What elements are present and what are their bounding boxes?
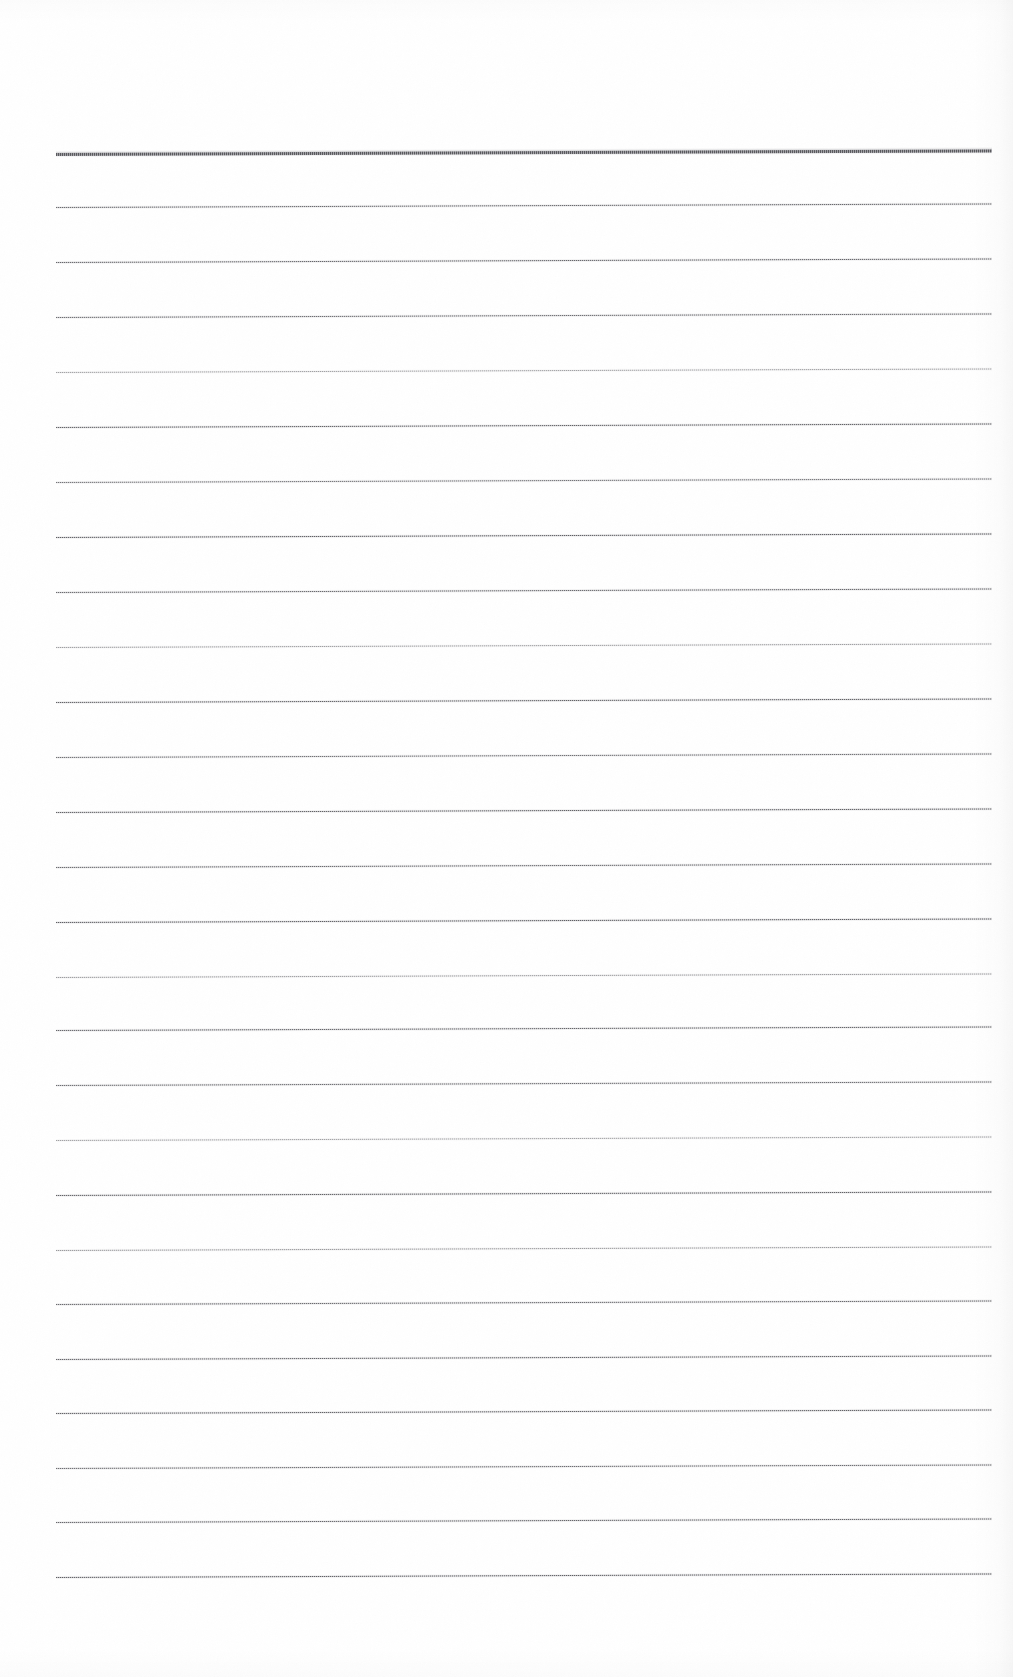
rule-line-halo <box>56 1572 992 1579</box>
rule-line <box>0 1025 1013 1035</box>
rule-line-halo <box>56 1354 992 1361</box>
rule-line-halo <box>56 587 992 594</box>
rule-line-stroke <box>56 478 992 483</box>
rule-line-halo <box>56 532 992 539</box>
rule-line-halo <box>56 202 992 209</box>
rule-line <box>0 312 1013 322</box>
rule-line-halo <box>56 1408 992 1415</box>
rule-line-stroke <box>56 1300 992 1305</box>
rule-line-stroke <box>56 588 992 593</box>
rule-line-halo <box>56 147 992 157</box>
rule-line-halo <box>56 1245 992 1252</box>
rule-line-halo <box>56 1190 992 1197</box>
rule-line <box>0 972 1013 982</box>
rule-line-stroke <box>56 423 992 428</box>
rule-line-stroke <box>56 533 992 538</box>
rule-line-halo <box>56 1299 992 1306</box>
rule-line-halo <box>56 1463 992 1470</box>
rule-line-halo <box>56 1135 992 1142</box>
rule-line-halo <box>56 807 992 814</box>
rule-line <box>0 1190 1013 1200</box>
rule-line-stroke <box>56 1246 992 1251</box>
rule-line-halo <box>56 1080 992 1087</box>
rule-line-halo <box>56 367 992 374</box>
rule-line-stroke <box>56 863 992 868</box>
rule-line <box>0 1572 1013 1582</box>
rule-line-stroke <box>56 258 992 263</box>
rule-line-stroke <box>56 1355 992 1360</box>
rule-line-stroke <box>56 203 992 208</box>
rule-line <box>0 1517 1013 1527</box>
rule-line <box>0 532 1013 542</box>
rule-line <box>0 642 1013 652</box>
rule-line-halo <box>56 642 992 649</box>
rule-line <box>0 862 1013 872</box>
rule-line-stroke <box>56 1191 992 1196</box>
rule-line-stroke <box>56 1518 992 1523</box>
rule-line-stroke <box>56 808 992 813</box>
rule-line-stroke <box>56 1464 992 1469</box>
rule-line-stroke <box>56 1409 992 1414</box>
rule-line <box>0 1354 1013 1364</box>
rule-line-halo <box>56 752 992 759</box>
rule-line-stroke <box>56 643 992 648</box>
rule-line <box>0 477 1013 487</box>
rule-line-halo <box>56 1025 992 1032</box>
rule-line-stroke <box>56 973 992 978</box>
rule-line <box>0 367 1013 377</box>
rule-line <box>0 752 1013 762</box>
rule-line <box>0 1135 1013 1145</box>
rule-line-halo <box>56 972 992 979</box>
rule-line-halo <box>56 312 992 319</box>
rule-line-stroke <box>56 1026 992 1031</box>
rule-line-halo <box>56 917 992 924</box>
rule-line-stroke <box>56 1573 992 1578</box>
rule-line-stroke <box>56 149 992 156</box>
rule-line-stroke <box>56 918 992 923</box>
rule-line-halo <box>56 862 992 869</box>
rule-line <box>0 807 1013 817</box>
rule-line <box>0 697 1013 707</box>
rule-line-halo <box>56 697 992 704</box>
rule-line-stroke <box>56 1081 992 1086</box>
rule-line <box>0 1299 1013 1309</box>
rule-line <box>0 917 1013 927</box>
rule-line <box>0 1463 1013 1473</box>
rule-line <box>0 1408 1013 1418</box>
ruled-lines-layer <box>0 0 1013 1677</box>
rule-line <box>0 587 1013 597</box>
rule-line-halo <box>56 1517 992 1524</box>
rule-line-halo <box>56 477 992 484</box>
rule-line-stroke <box>56 753 992 758</box>
rule-line <box>0 1245 1013 1255</box>
rule-line <box>0 202 1013 212</box>
rule-line-halo <box>56 422 992 429</box>
rule-line-stroke <box>56 1136 992 1141</box>
rule-line-stroke <box>56 313 992 318</box>
rule-line <box>0 257 1013 267</box>
rule-line-stroke <box>56 698 992 703</box>
header-rule-line <box>0 148 1013 158</box>
rule-line <box>0 1080 1013 1090</box>
scanned-page <box>0 0 1013 1677</box>
rule-line <box>0 422 1013 432</box>
rule-line-halo <box>56 257 992 264</box>
rule-line-stroke <box>56 368 992 373</box>
